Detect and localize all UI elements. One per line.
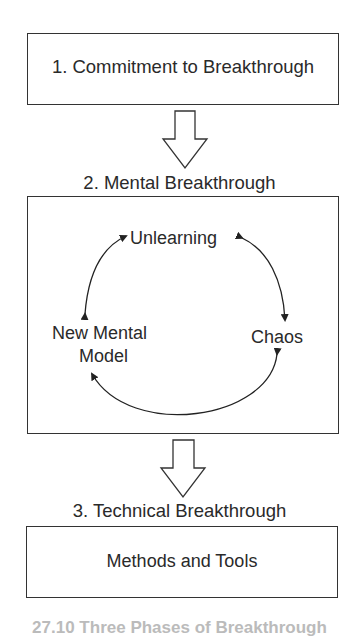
figure-caption: 27.10 Three Phases of Breakthrough — [0, 618, 359, 638]
cycle-node-chaos: Chaos — [251, 327, 303, 348]
step2-title: 2. Mental Breakthrough — [0, 172, 359, 194]
cycle-node-new-model-line2: Model — [79, 346, 128, 367]
hollow-down-arrow-1 — [163, 111, 207, 168]
step1-label: 1. Commitment to Breakthrough — [28, 56, 338, 78]
cycle-node-new-model-line1: New Mental — [52, 323, 147, 344]
hollow-down-arrow-2 — [161, 440, 205, 497]
step3-title: 3. Technical Breakthrough — [0, 500, 359, 522]
step3-box: Methods and Tools — [26, 526, 338, 598]
step3-label: Methods and Tools — [27, 551, 337, 572]
cycle-node-unlearning: Unlearning — [130, 228, 217, 249]
step1-box: 1. Commitment to Breakthrough — [27, 33, 339, 105]
